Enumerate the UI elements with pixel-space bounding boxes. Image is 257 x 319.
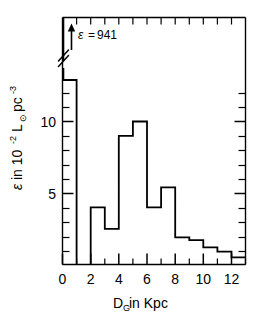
annotation-value: 941 — [97, 28, 117, 42]
annotation-equals: = — [88, 28, 95, 42]
x-axis-title-d: D — [113, 295, 123, 311]
x-tick-label-8: 8 — [171, 271, 179, 287]
y-axis-title-pc: pc — [9, 97, 25, 112]
y-tick-label-10: 10 — [40, 114, 56, 130]
y-axis-title-sun-symbol: ⊙ — [18, 114, 28, 122]
x-tick-label-4: 4 — [115, 271, 123, 287]
histogram-figure: ε = 941 10 5 0 2 4 6 8 10 12 D G in Kpc … — [0, 0, 257, 319]
x-tick-label-0: 0 — [59, 271, 67, 287]
x-tick-label-12: 12 — [224, 271, 240, 287]
chart-canvas: ε = 941 10 5 0 2 4 6 8 10 12 D G in Kpc … — [0, 0, 257, 319]
y-axis-title-in-10: in 10 — [9, 149, 25, 180]
y-axis-title-exponent-minus3: -3 — [8, 86, 18, 94]
y-axis-title-exponent-minus2: -2 — [8, 136, 18, 144]
x-tick-label-2: 2 — [87, 271, 95, 287]
x-tick-label-6: 6 — [143, 271, 151, 287]
x-axis-title: D G in Kpc — [113, 295, 168, 313]
y-tick-label-5: 5 — [48, 186, 56, 202]
x-axis-title-rest: in Kpc — [129, 295, 168, 311]
y-axis-title-l: L — [9, 124, 25, 132]
y-axis-title-epsilon: ε — [9, 183, 25, 190]
x-tick-label-10: 10 — [196, 271, 212, 287]
chart-background — [0, 0, 257, 319]
annotation-epsilon: ε — [78, 28, 84, 42]
